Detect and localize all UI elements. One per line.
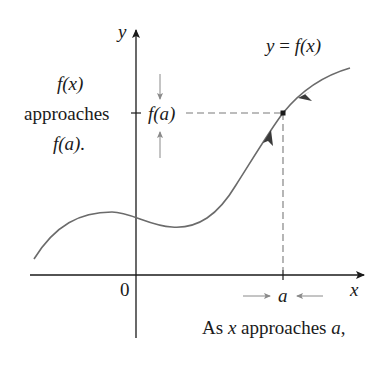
curve-label-lhs: y: [264, 35, 275, 56]
bottom-caption-suffix: ,: [341, 317, 346, 338]
limit-point: [281, 111, 286, 116]
x-axis-label: x: [349, 279, 359, 300]
origin-label: 0: [120, 279, 130, 300]
bottom-caption: As x approaches a,: [202, 317, 346, 338]
curve-arrow-from-left-icon: [263, 130, 273, 146]
bottom-caption-middle: approaches: [236, 317, 331, 338]
bottom-caption-target: a: [331, 317, 341, 338]
left-caption-line1: f(x): [57, 73, 83, 95]
curve-label: y = f(x): [264, 35, 321, 57]
a-label: a: [278, 285, 288, 306]
bottom-caption-prefix: As: [202, 317, 228, 338]
curve-label-eq: =: [274, 35, 294, 56]
left-caption-line3: f(a).: [53, 133, 85, 155]
fa-label: f(a): [148, 103, 175, 125]
y-axis-label: y: [116, 21, 127, 42]
curve-label-rhs: f(x): [295, 35, 321, 57]
limit-diagram: y x 0 y = f(x) f(a) a f(x) approaches f(…: [0, 0, 386, 366]
left-caption-line2: approaches: [24, 103, 109, 124]
